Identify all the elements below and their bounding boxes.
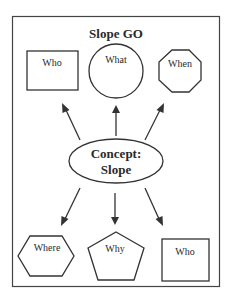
center-label-line2: Slope	[101, 162, 132, 177]
node-when: When	[159, 50, 201, 92]
node-what: What	[89, 44, 143, 98]
circle-shape	[89, 44, 143, 98]
node-who-bottom: Who	[162, 239, 209, 281]
center-label-line1: Concept:	[91, 146, 142, 161]
diagram-title: Slope GO	[89, 26, 143, 41]
node-label: Why	[105, 243, 124, 254]
node-label: Who	[175, 246, 194, 257]
node-label: What	[105, 54, 127, 65]
node-label: Who	[42, 57, 61, 68]
node-label: When	[168, 58, 192, 69]
node-center-concept: Concept: Slope	[69, 139, 163, 183]
octagon-shape	[159, 50, 201, 92]
graphic-organizer: Slope GO Who What When Concept: Slope	[0, 0, 232, 302]
node-label: Where	[34, 242, 61, 253]
node-where: Where	[18, 236, 74, 276]
node-who-top: Who	[27, 51, 78, 90]
